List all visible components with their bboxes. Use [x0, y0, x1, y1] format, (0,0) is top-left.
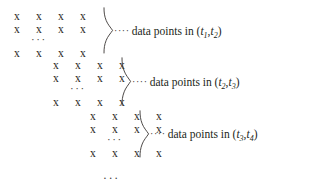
data-mark: x — [90, 123, 108, 136]
annotation-text-1: data points in ( — [132, 25, 201, 37]
data-block-1: x x x x x x x x ··· x x x x — [14, 8, 98, 58]
data-mark: x — [53, 96, 71, 109]
data-row: x x x x — [14, 21, 98, 34]
data-mark: x — [14, 23, 32, 36]
data-mark: x — [14, 47, 32, 60]
data-mark: x — [112, 147, 130, 160]
annotation-text-2: data points in ( — [150, 76, 219, 88]
data-mark: x — [90, 147, 108, 160]
data-mark: x — [80, 23, 98, 36]
data-mark: x — [97, 72, 115, 85]
annotation-close-3: ) — [254, 128, 258, 140]
figure-tail-ellipsis: ··· — [103, 172, 120, 185]
annotation-text-3: data points in ( — [168, 128, 237, 140]
annotation-close-1: ) — [218, 25, 222, 37]
brace-3 — [138, 110, 150, 158]
data-mark: x — [53, 72, 71, 85]
data-points-figure: x x x x x x x x ··· x x x x ····data poi… — [0, 0, 310, 190]
annotation-close-2: ) — [236, 76, 240, 88]
leader-dots-1: ···· — [114, 25, 130, 36]
annotation-1: ····data points in (t1,t2) — [114, 24, 222, 42]
data-mark: x — [156, 147, 174, 160]
data-mark: x — [36, 47, 54, 60]
data-row: x x x x — [90, 145, 174, 158]
brace-1 — [102, 7, 114, 54]
leader-dots-3: ···· — [150, 128, 166, 139]
annotation-2: ····data points in (t2,t3) — [132, 75, 240, 93]
data-mark: x — [58, 23, 76, 36]
annotation-3: ····data points in (t3,t4) — [150, 127, 258, 145]
leader-dots-2: ···· — [132, 76, 148, 87]
brace-2 — [120, 57, 132, 106]
